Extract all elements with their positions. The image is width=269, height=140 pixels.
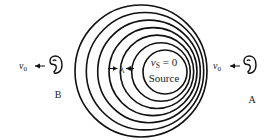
- ear-icon: [50, 56, 62, 73]
- wavefront-6: [86, 12, 203, 129]
- wavefronts: [75, 5, 207, 137]
- source-velocity-label: vS = 0: [151, 56, 178, 70]
- observer-a-velocity: v0: [213, 60, 221, 73]
- source-name: Source: [149, 72, 180, 84]
- observer-b: v0 B: [19, 56, 62, 100]
- source-labels: vS = 0 Source: [149, 56, 180, 84]
- observer-a: v0 A: [213, 56, 256, 105]
- wavelength-indicator: λ: [108, 63, 134, 75]
- observer-b-velocity: v0: [19, 60, 27, 73]
- ear-icon: [244, 56, 256, 73]
- observer-b-label: B: [55, 89, 62, 100]
- observer-a-label: A: [248, 94, 256, 105]
- wavelength-label: λ: [119, 63, 125, 75]
- doppler-diagram: λ vS = 0 Source v0 B v0 A: [0, 0, 269, 140]
